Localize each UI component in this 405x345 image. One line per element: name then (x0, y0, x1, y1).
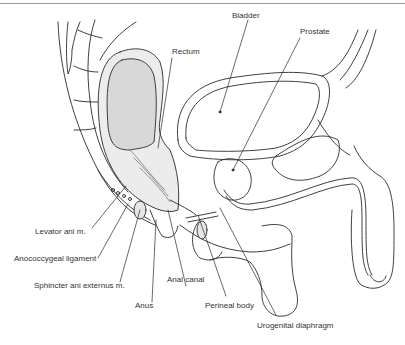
urethra (224, 146, 394, 288)
label-anococcygeal-ligament: Anococcygeal ligament (14, 255, 96, 263)
bladder (177, 72, 329, 159)
label-anus: Anus (135, 302, 153, 310)
anatomy-illustration (0, 0, 405, 345)
label-sphincter-ani-externus: Sphincter ani externus m. (34, 282, 125, 290)
label-perineal-body: Perineal body (205, 302, 254, 310)
label-anal-canal: Anal canal (167, 276, 204, 284)
label-rectum: Rectum (172, 48, 200, 56)
label-urogenital-diaphragm: Urogenital diaphragm (257, 322, 334, 330)
label-prostate: Prostate (300, 28, 330, 36)
prostate (214, 159, 251, 200)
label-bladder: Bladder (232, 12, 260, 20)
label-levator-ani: Levator ani m. (35, 228, 86, 236)
